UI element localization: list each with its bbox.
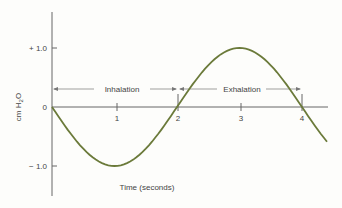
- x-tick-label-3: 3: [239, 114, 244, 123]
- x-axis-label: Time (seconds): [120, 183, 175, 192]
- x-tick-label-1: 1: [115, 114, 120, 123]
- pressure-time-chart: + 1.0 0 − 1.0 1 2 3 4 cm H2O Time (secon…: [0, 0, 342, 208]
- y-tick-label-plus1: + 1.0: [29, 44, 48, 53]
- inhalation-annotation: Inhalation: [53, 85, 177, 94]
- inhalation-label: Inhalation: [105, 85, 140, 94]
- x-tick-label-4: 4: [300, 114, 305, 123]
- x-tick-label-2: 2: [176, 114, 181, 123]
- exhalation-annotation: Exhalation: [179, 85, 301, 94]
- y-tick-label-minus1: − 1.0: [29, 162, 48, 171]
- exhalation-label: Exhalation: [223, 85, 260, 94]
- svg-text:cm H2O: cm H2O: [14, 93, 24, 121]
- y-axis-label: cm H2O: [14, 93, 24, 121]
- y-tick-label-zero: 0: [43, 103, 48, 112]
